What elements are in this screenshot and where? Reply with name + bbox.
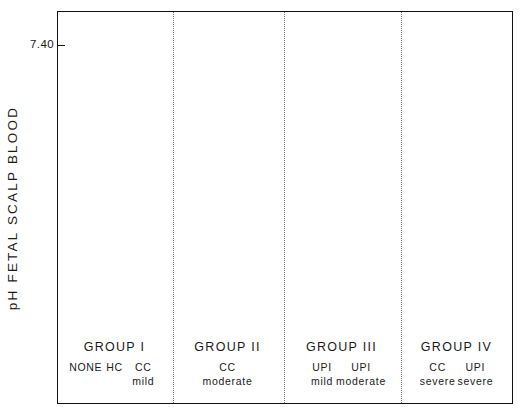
category-label-line1: CC (429, 361, 446, 373)
group-title: GROUP I (84, 340, 146, 354)
chart-figure: pH FETAL SCALP BLOOD 7.407.307.207.107.0… (0, 0, 523, 416)
category-label: UPIsevere (457, 360, 493, 388)
category-label-line1: CC (219, 361, 236, 373)
category-label-line1: UPI (466, 361, 486, 373)
category-label-line2: severe (457, 374, 493, 388)
category-label: UPImoderate (336, 360, 386, 388)
category-label-line2: moderate (203, 374, 253, 388)
group-title: GROUP III (306, 340, 377, 354)
group-separator (173, 12, 174, 403)
category-label-line1: UPI (312, 361, 332, 373)
y-tick-label: 7.40 (20, 38, 54, 50)
category-label: HC (106, 360, 123, 374)
category-label: CCsevere (420, 360, 456, 388)
y-axis-tick-labels: 7.407.307.207.107.00 (16, 0, 54, 416)
group-separator (284, 12, 285, 403)
category-label-line2: moderate (336, 374, 386, 388)
category-label: CCmoderate (203, 360, 253, 388)
group-title: GROUP II (194, 340, 260, 354)
category-label-line1: UPI (351, 361, 371, 373)
category-label: UPImild (311, 360, 333, 388)
y-tick-major (58, 45, 65, 46)
category-label-line1: NONE (69, 361, 102, 373)
category-label-line2: severe (420, 374, 456, 388)
category-label: NONE (69, 360, 102, 374)
category-label: CCmild (132, 360, 154, 388)
category-label-line2: mild (311, 374, 333, 388)
category-label-line1: CC (135, 361, 152, 373)
group-title: GROUP IV (421, 340, 492, 354)
category-label-line2: mild (132, 374, 154, 388)
category-label-line1: HC (106, 361, 123, 373)
group-separator (401, 12, 402, 403)
